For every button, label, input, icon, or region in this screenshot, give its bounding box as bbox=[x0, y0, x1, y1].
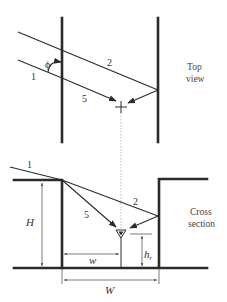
cs-ray-5 bbox=[62, 180, 116, 227]
angle-phi-label: ϕ bbox=[45, 59, 50, 70]
cross-section-caption-line2: section bbox=[188, 219, 215, 229]
receiver-cross-icon bbox=[115, 101, 127, 113]
cs-ray-2-reflected bbox=[130, 216, 158, 228]
dimension-H-label: H bbox=[25, 216, 35, 228]
dimension-W-label: W bbox=[105, 284, 115, 296]
cs-ray-5-label: 5 bbox=[84, 209, 89, 220]
top-ray-1 bbox=[18, 60, 62, 78]
cross-section: 1 2 5 H hr w W Cross section bbox=[10, 159, 215, 296]
top-ray-2-reflected bbox=[128, 90, 158, 103]
cs-ray-1 bbox=[10, 167, 62, 180]
left-building-profile bbox=[14, 180, 62, 268]
top-ray-5-label: 5 bbox=[82, 93, 87, 104]
top-view-caption-line1: Top bbox=[187, 62, 202, 72]
top-ray-1-label: 1 bbox=[31, 71, 36, 82]
top-view-caption-line2: view bbox=[186, 74, 205, 84]
top-view: ϕ 1 2 5 Top view bbox=[18, 18, 205, 142]
top-ray-2-label: 2 bbox=[107, 57, 112, 68]
street-canyon-diagram: ϕ 1 2 5 Top view 1 2 5 H bbox=[0, 0, 227, 302]
dimension-hr-label: hr bbox=[144, 248, 153, 262]
cs-ray-1-label: 1 bbox=[27, 159, 32, 170]
cross-section-caption-line1: Cross bbox=[190, 207, 212, 217]
cs-ray-2 bbox=[62, 180, 158, 216]
top-ray-2 bbox=[18, 32, 158, 90]
dimension-w-label: w bbox=[89, 254, 97, 266]
receiver-microphone-icon bbox=[116, 230, 126, 268]
cs-ray-2-label: 2 bbox=[133, 196, 138, 207]
top-ray-5 bbox=[62, 78, 116, 101]
